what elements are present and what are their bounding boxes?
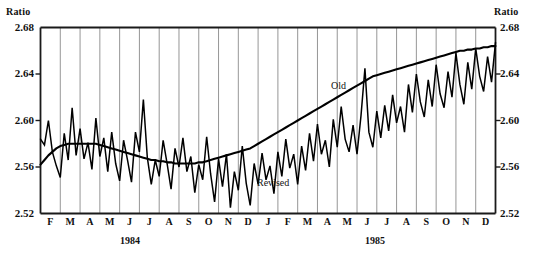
x-tick-label: J xyxy=(119,216,141,227)
x-tick-label: S xyxy=(415,216,437,227)
x-tick-label: M xyxy=(297,216,319,227)
x-tick-label: A xyxy=(158,216,180,227)
x-tick-label: A xyxy=(316,216,338,227)
x-tick-label: O xyxy=(198,216,220,227)
y-tick-label: 2.52 xyxy=(2,207,34,219)
y-tick-label: 2.68 xyxy=(500,21,532,33)
series-annotation-old: Old xyxy=(331,80,346,91)
y-tick-label: 2.60 xyxy=(500,114,532,126)
y-tick-label: 2.64 xyxy=(500,67,532,79)
x-tick-label: F xyxy=(39,216,61,227)
y-tick-label: 2.56 xyxy=(500,160,532,172)
x-tick-label: S xyxy=(178,216,200,227)
x-tick-label: N xyxy=(217,216,239,227)
y-tick-label: 2.52 xyxy=(500,207,532,219)
x-tick-label: M xyxy=(336,216,358,227)
x-tick-label: D xyxy=(475,216,497,227)
x-tick-label: F xyxy=(277,216,299,227)
x-tick-label: O xyxy=(435,216,457,227)
x-tick-label: J xyxy=(138,216,160,227)
x-tick-label: M xyxy=(99,216,121,227)
x-tick-label: M xyxy=(59,216,81,227)
y-tick-label: 2.68 xyxy=(2,21,34,33)
y-tick-label: 2.64 xyxy=(2,67,34,79)
year-label: 1985 xyxy=(345,235,405,246)
x-tick-label: A xyxy=(395,216,417,227)
chart-figure: Ratio Ratio 2.522.562.602.642.68 2.522.5… xyxy=(0,0,537,255)
x-tick-label: A xyxy=(79,216,101,227)
left-axis-title: Ratio xyxy=(6,6,30,17)
y-tick-label: 2.60 xyxy=(2,114,34,126)
x-tick-label: J xyxy=(376,216,398,227)
y-tick-label: 2.56 xyxy=(2,160,34,172)
x-tick-label: J xyxy=(257,216,279,227)
right-axis-title: Ratio xyxy=(494,6,518,17)
x-tick-label: J xyxy=(356,216,378,227)
x-tick-label: N xyxy=(455,216,477,227)
series-annotation-revised: Revised xyxy=(257,177,289,188)
series-line-revised xyxy=(41,46,496,165)
year-label: 1984 xyxy=(100,235,160,246)
x-tick-label: D xyxy=(237,216,259,227)
